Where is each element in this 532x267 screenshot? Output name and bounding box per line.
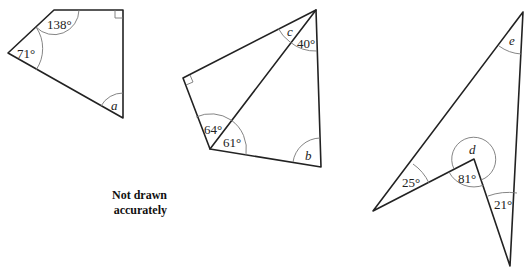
arrowhead-quadrilateral: e 25° d 81° 21° bbox=[373, 12, 523, 266]
angle-label-40: 40° bbox=[297, 36, 315, 51]
right-angle-marker bbox=[115, 10, 123, 18]
angle-label-61: 61° bbox=[223, 135, 241, 150]
angle-label-71: 71° bbox=[17, 46, 35, 61]
angle-label-138: 138° bbox=[47, 17, 72, 32]
angle-label-64: 64° bbox=[204, 122, 222, 137]
quadrilateral-1: 138° 71° a bbox=[8, 10, 123, 118]
angle-arc-21 bbox=[488, 192, 517, 196]
not-drawn-accurately-note: Not drawn accurately bbox=[100, 188, 167, 218]
angle-label-b: b bbox=[305, 148, 312, 163]
diagonal bbox=[210, 10, 316, 149]
angle-label-81: 81° bbox=[458, 171, 476, 186]
quadrilateral-2: c 40° 64° 61° b bbox=[183, 10, 321, 167]
angle-label-a: a bbox=[111, 98, 118, 113]
angle-label-21: 21° bbox=[494, 197, 512, 212]
angle-label-e: e bbox=[509, 33, 515, 48]
angle-label-25: 25° bbox=[402, 175, 420, 190]
angle-arc-64 bbox=[196, 114, 231, 120]
note-line-2: accurately bbox=[100, 203, 167, 218]
geometry-diagram: 138° 71° a c 40° 64° 61° b e 25° bbox=[0, 0, 532, 267]
quadrilateral-2-outline bbox=[183, 10, 321, 167]
arrowhead-outline bbox=[373, 12, 523, 266]
note-line-1: Not drawn bbox=[100, 188, 167, 203]
angle-label-d: d bbox=[469, 142, 476, 157]
angle-arc-71 bbox=[36, 27, 43, 70]
angle-label-c: c bbox=[287, 24, 293, 39]
